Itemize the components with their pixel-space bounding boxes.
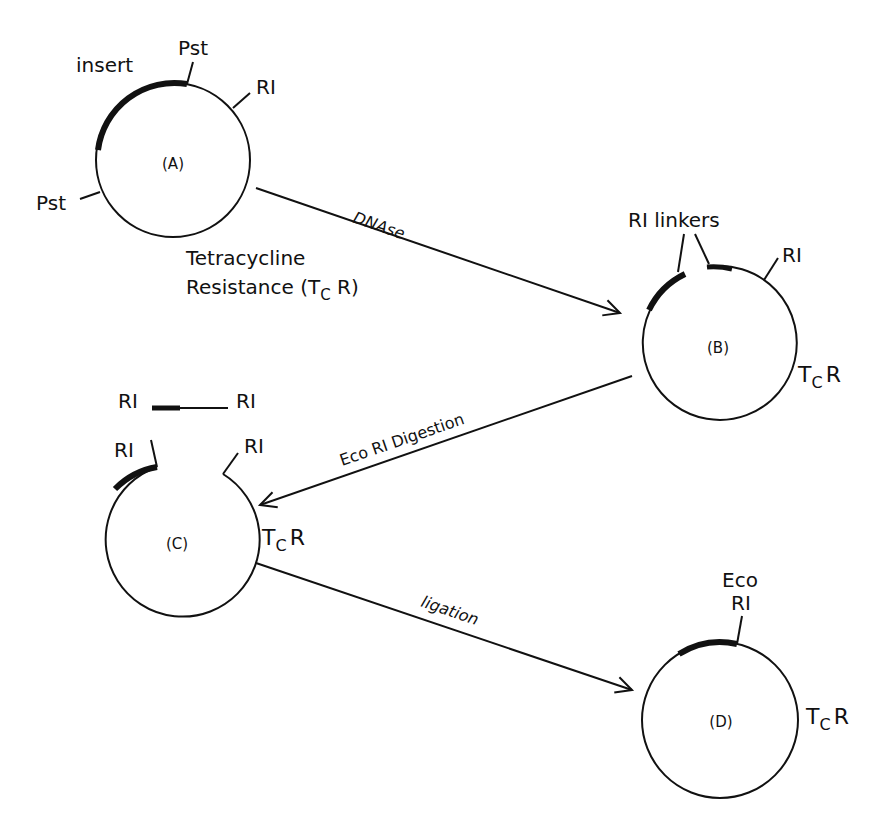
pst-top-label: Pst	[178, 36, 208, 60]
eco-label-d: Eco	[722, 568, 758, 592]
ri-label-a: RI	[256, 75, 276, 99]
ri-linkers-label: RI linkers	[628, 208, 720, 232]
plasmid-d: Eco RI (D) TCR	[642, 568, 849, 798]
insert-label: insert	[76, 53, 133, 77]
ri-linker-left	[649, 274, 685, 310]
insert-segment	[98, 83, 187, 150]
plasmid-b: RI linkers RI (B) TCR	[628, 208, 841, 420]
ligation-arrow	[256, 563, 632, 690]
tcr-label-b: TCR	[797, 362, 841, 392]
ri-left-c: RI	[114, 438, 134, 462]
dnase-label: DNAse	[351, 208, 408, 243]
diagram-svg: (A) Pst insert RI Pst Tetracycline Resis…	[0, 0, 884, 833]
tcr-line2: Resistance (TC R)	[186, 275, 359, 304]
plasmid-a-label: (A)	[162, 155, 184, 173]
fragment-ri-left: RI	[118, 389, 138, 413]
ri-linker-right	[707, 267, 732, 269]
plasmid-c: RI RI RI RI (C) TCR	[106, 389, 305, 617]
ligation-label: ligation	[419, 592, 481, 629]
plasmid-cloning-diagram: (A) Pst insert RI Pst Tetracycline Resis…	[0, 0, 884, 833]
ri-right-c: RI	[244, 434, 264, 458]
tcr-line1: Tetracycline	[185, 246, 305, 270]
fragment-ri-right: RI	[236, 389, 256, 413]
plasmid-a: (A) Pst insert RI Pst Tetracycline Resis…	[36, 36, 359, 304]
plasmid-c-label: (C)	[166, 535, 188, 553]
pst-left-label: Pst	[36, 191, 66, 215]
ri-label-b: RI	[782, 243, 802, 267]
tcr-label-c: TCR	[261, 525, 305, 555]
digestion-arrow	[260, 376, 632, 505]
insert-segment-d	[679, 642, 737, 654]
plasmid-d-label: (D)	[709, 713, 732, 731]
ri-label-d: RI	[731, 591, 751, 615]
plasmid-b-label: (B)	[707, 339, 729, 357]
tcr-label-d: TCR	[805, 704, 849, 734]
